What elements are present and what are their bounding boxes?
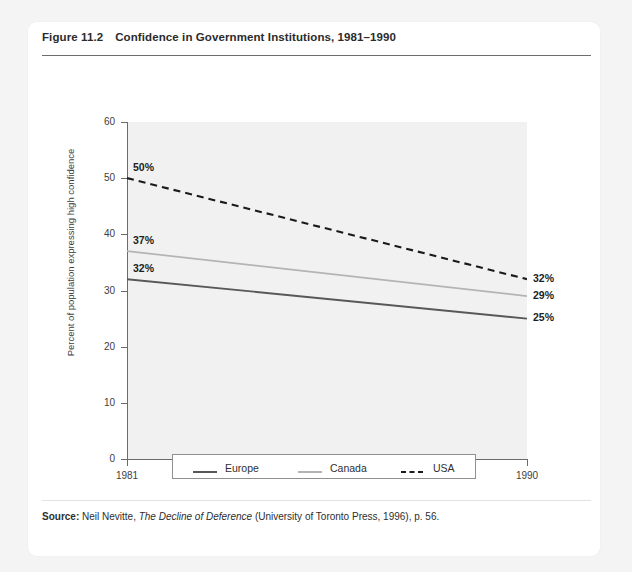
page-background: Figure 11.2Confidence in Government Inst… [0,0,632,572]
legend-swatch-canada-icon [298,463,322,473]
point-label-usa-end: 32% [533,272,554,284]
y-tick-label-0: 0 [75,453,115,464]
x-tick-label-1981: 1981 [97,470,157,481]
series-line-canada [127,251,527,296]
legend-label-canada: Canada [330,462,367,474]
series-line-usa [127,178,527,279]
y-tick-label-40: 40 [75,228,115,239]
figure-card: Figure 11.2Confidence in Government Inst… [28,22,600,556]
y-tick-label-30: 30 [75,285,115,296]
title-divider [42,55,591,56]
point-label-europe-start: 32% [133,262,154,274]
source-note: Source: Neil Nevitte, The Decline of Def… [42,511,439,522]
legend-label-europe: Europe [225,462,259,474]
source-publication: (University of Toronto Press, 1996), p. … [252,511,439,522]
x-tick-1981 [127,460,128,466]
source-divider [42,500,591,501]
series-lines [127,122,527,460]
y-tick-label-10: 10 [75,397,115,408]
y-tick-label-50: 50 [75,172,115,183]
source-author: Neil Nevitte, [79,511,138,522]
legend-item-usa: USA [401,459,455,476]
chart-legend: Europe Canada USA [172,454,476,479]
point-label-canada-end: 29% [533,289,554,301]
x-tick-label-1990: 1990 [497,470,557,481]
y-axis-title: Percent of population expressing high co… [65,143,76,363]
chart-area: Percent of population expressing high co… [28,62,600,487]
y-tick-label-20: 20 [75,341,115,352]
x-tick-1990 [527,460,528,466]
legend-swatch-usa-icon [401,463,425,473]
figure-title-text: Confidence in Government Institutions, 1… [115,31,396,43]
legend-item-europe: Europe [193,459,259,476]
legend-label-usa: USA [433,462,455,474]
point-label-canada-start: 37% [133,234,154,246]
legend-swatch-europe-icon [193,463,217,473]
source-work-title: The Decline of Deference [139,511,252,522]
source-label: Source: [42,511,79,522]
y-tick-label-60: 60 [75,116,115,127]
legend-item-canada: Canada [298,459,367,476]
point-label-europe-end: 25% [533,311,554,323]
point-label-usa-start: 50% [133,161,154,173]
figure-title: Figure 11.2Confidence in Government Inst… [42,31,396,43]
series-line-europe [127,279,527,318]
figure-number: Figure 11.2 [42,31,103,43]
